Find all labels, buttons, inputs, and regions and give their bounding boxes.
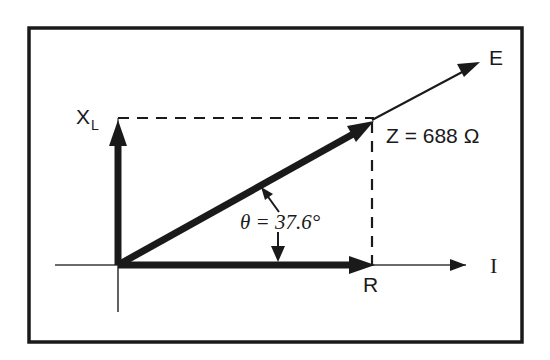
impedance-phasor-diagram: X L Z = 688 Ω θ = 37.6° R I E	[0, 0, 550, 360]
figure-canvas: X L Z = 688 Ω θ = 37.6° R I E	[0, 0, 550, 360]
angle-label: θ = 37.6°	[240, 210, 321, 234]
voltage-vector-label: E	[489, 46, 503, 69]
figure-border	[29, 28, 522, 342]
reactance-label: X	[76, 105, 90, 128]
resistance-label: R	[363, 273, 378, 296]
reactance-subscript-label: L	[91, 117, 99, 133]
current-axis-label: I	[490, 253, 497, 278]
impedance-label: Z = 688 Ω	[386, 124, 479, 147]
